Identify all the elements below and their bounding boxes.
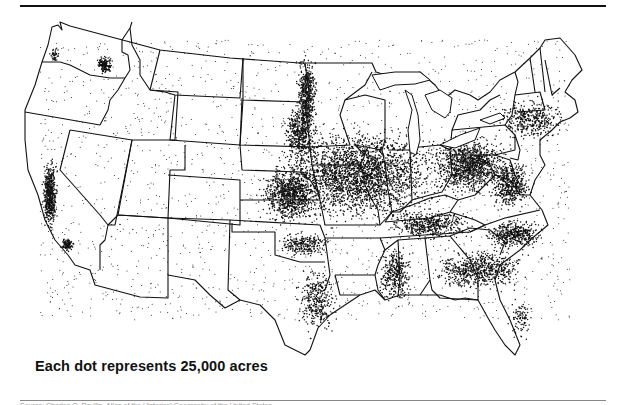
bottom-rule [20,400,606,401]
great-lakes [372,72,505,155]
dot-layer [40,40,571,340]
map-caption: Each dot represents 25,000 acres [35,358,268,374]
us-dot-density-map [0,0,624,400]
